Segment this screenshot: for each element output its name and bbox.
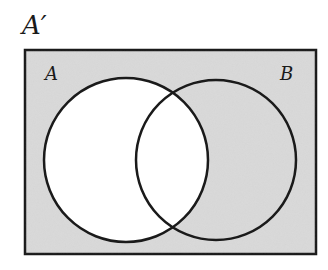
venn-diagram: A B (0, 0, 328, 270)
set-b-label: B (279, 63, 293, 84)
set-a-label: A (43, 63, 58, 84)
